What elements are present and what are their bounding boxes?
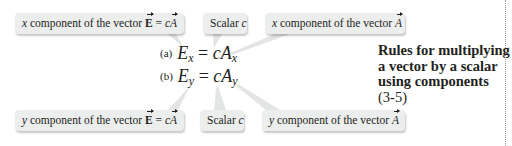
vector-A-symbol: A	[392, 110, 399, 131]
callout-y-component-A: y component of the vector A	[262, 110, 405, 131]
callout-y-component-E: y component of the vector E = cA	[15, 110, 184, 131]
equation-caption: Rules for multiplying a vector by a scal…	[378, 43, 510, 105]
equation-a: (a)Ex = cAx	[160, 43, 237, 64]
callout-scalar-c-bottom: Scalar c	[200, 110, 244, 131]
vector-E-symbol: E	[145, 110, 153, 131]
equation-label: (a)	[160, 47, 172, 59]
vector-A-symbol: A	[170, 13, 177, 34]
callout-x-component-A: x component of the vector A	[265, 13, 405, 34]
vector-E-symbol: E	[145, 13, 153, 34]
equation-label: (b)	[160, 70, 173, 82]
vector-A-symbol: A	[170, 110, 177, 131]
equation-b: (b)Ey = cAy	[160, 66, 238, 87]
callout-x-component-E: x component of the vector E = cA	[15, 13, 184, 34]
margin-divider	[505, 0, 506, 146]
vector-A-symbol: A	[395, 13, 402, 34]
callout-scalar-c-top: Scalar c	[203, 13, 247, 34]
equation-number: (3-5)	[378, 90, 510, 106]
